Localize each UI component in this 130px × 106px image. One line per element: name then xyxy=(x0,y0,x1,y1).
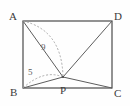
vertex-label-b: B xyxy=(10,87,17,98)
measure-label-bp: 5 xyxy=(28,68,33,77)
point-p-marker xyxy=(62,76,64,78)
vertex-label-p: P xyxy=(60,85,66,96)
segment-bp xyxy=(23,77,63,88)
measure-label-ap: 9 xyxy=(41,43,46,52)
segment-pc xyxy=(63,77,112,88)
vertex-label-a: A xyxy=(9,11,17,22)
vertex-label-d: D xyxy=(114,11,122,22)
geometry-figure: A D B C P 9 5 xyxy=(0,0,130,106)
vertex-label-c: C xyxy=(114,88,121,99)
segment-pd xyxy=(63,21,112,77)
